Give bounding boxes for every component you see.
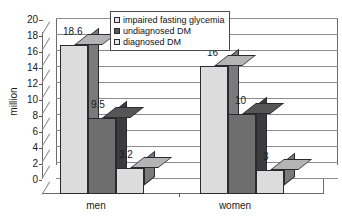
y-tick-label: 2 [20,159,38,169]
data-label-men-ddm: 3.2 [119,150,133,160]
y-tick-label: 20 [20,15,38,25]
y-tick-label: 12 [20,79,38,89]
x-tick-mark [179,193,180,197]
data-label-men-udm: 9.5 [91,100,105,110]
legend: impaired fasting glycemia undiagnosed DM… [110,11,230,51]
data-label-men-ifg: 18.6 [63,27,82,37]
legend-swatch-icon [114,17,120,23]
bar-front-face [228,114,256,194]
bar-front-face [116,168,144,194]
x-category-label-men: men [76,200,116,211]
data-label-women-ddm: 3 [263,152,269,162]
bar-women-undiagnosed-dm [228,114,256,194]
bar-men-diagnosed-dm [116,168,144,194]
x-category-label-women: women [212,200,258,211]
y-tick-label: 14 [20,63,38,73]
y-tick-label: 4 [20,143,38,153]
y-tick-label: 16 [20,47,38,57]
legend-item-impaired-fasting-glycemia[interactable]: impaired fasting glycemia [114,15,225,25]
plot-side-wall-edge [42,32,43,179]
bar-men-undiagnosed-dm [88,118,116,194]
bar-front-face [60,45,88,194]
legend-item-undiagnosed-dm[interactable]: undiagnosed DM [114,26,225,36]
y-axis: 20 18 16 14 12 10 8 6 4 2 0 [16,0,38,223]
y-tick-label: 18 [20,31,38,41]
legend-label: diagnosed DM [123,38,181,47]
legend-label: undiagnosed DM [123,27,191,36]
bar-women-impaired-fasting-glycemia [200,66,228,194]
bar-women-diagnosed-dm [256,170,284,194]
plot-floor-right-edge [323,178,324,194]
bar-front-face [88,118,116,194]
bar-front-face [200,66,228,194]
y-tick-label: 0 [20,175,38,185]
y-tick-label: 8 [20,111,38,121]
y-tick-label: 10 [20,95,38,105]
legend-label: impaired fasting glycemia [123,16,225,25]
legend-swatch-icon [114,28,120,34]
bar-front-face [256,170,284,194]
legend-swatch-icon [114,39,120,45]
bar-men-impaired-fasting-glycemia [60,45,88,194]
data-label-women-udm: 10 [235,96,246,106]
y-tick-label: 6 [20,127,38,137]
legend-item-diagnosed-dm[interactable]: diagnosed DM [114,37,225,47]
bar-chart: million 20 18 16 14 12 10 8 6 4 2 0 [0,0,342,223]
